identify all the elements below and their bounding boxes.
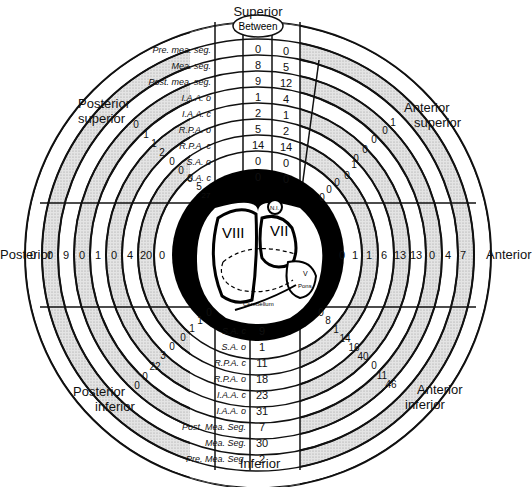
svg-text:R.P.A. c: R.P.A. c [214,358,246,368]
svg-text:2: 2 [255,107,261,119]
svg-text:14: 14 [252,139,264,151]
svg-text:9: 9 [255,75,261,87]
svg-text:I.A.A. c: I.A.A. c [217,390,247,400]
svg-text:1: 1 [95,249,101,261]
svg-text:22: 22 [149,361,161,372]
svg-text:0: 0 [142,371,148,382]
svg-text:Pre. mea. seg.: Pre. mea. seg. [152,45,211,55]
svg-text:0: 0 [371,134,377,145]
svg-text:1: 1 [333,324,339,335]
svg-text:0: 0 [206,307,212,318]
svg-text:Post. mea. seg.: Post. mea. seg. [148,77,211,87]
label-pons: Pons [298,283,312,289]
svg-text:1: 1 [283,109,289,121]
label-v: V [303,270,308,277]
svg-text:Post. Mea. Seg.: Post. Mea. Seg. [182,422,246,432]
svg-text:13: 13 [410,249,422,261]
svg-text:20: 20 [140,249,152,261]
svg-text:23: 23 [256,389,268,401]
svg-text:0: 0 [255,171,261,183]
svg-text:1: 1 [352,249,358,261]
svg-text:0: 0 [111,249,117,261]
svg-text:46: 46 [385,379,397,390]
label-vii: VII [270,222,288,239]
between-label: Between [239,21,278,32]
svg-text:0: 0 [334,177,340,188]
svg-text:7: 7 [259,421,265,433]
svg-text:5: 5 [283,61,289,73]
svg-text:14: 14 [280,141,292,153]
svg-text:31: 31 [256,405,268,417]
svg-text:Mea. Seg.: Mea. Seg. [205,438,246,448]
svg-text:R.P.A. o: R.P.A. o [179,125,211,135]
svg-text:0: 0 [79,249,85,261]
svg-text:7: 7 [460,249,466,261]
svg-text:S.A. o: S.A. o [186,157,211,167]
svg-text:0: 0 [187,173,193,184]
svg-text:0: 0 [180,332,186,343]
svg-text:1: 1 [197,315,203,326]
svg-text:0: 0 [353,153,359,164]
svg-text:4: 4 [445,249,451,261]
svg-text:0: 0 [255,155,261,167]
label-anterior-superior: Anterior superior [404,100,461,130]
svg-text:R.P.A. o: R.P.A. o [214,374,246,384]
svg-text:0: 0 [318,307,324,318]
label-viii: VIII [222,224,245,241]
svg-text:0: 0 [382,125,388,136]
svg-text:0: 0 [339,249,345,261]
label-cerebellum: Cerebellum [243,301,274,307]
svg-text:R.P.A. c: R.P.A. c [179,141,211,151]
label-posterior-superior: Posterior superior [78,96,130,126]
svg-text:0: 0 [133,119,139,130]
svg-text:0: 0 [134,380,140,391]
svg-text:0: 0 [283,173,289,185]
label-posterior-inferior: Posterior inferior [73,384,135,414]
svg-text:12: 12 [280,77,292,89]
svg-text:27: 27 [202,191,211,200]
svg-text:0: 0 [326,184,332,195]
svg-text:0: 0 [159,249,165,261]
svg-text:18: 18 [256,373,268,385]
svg-text:0: 0 [283,45,289,57]
svg-text:11: 11 [256,357,267,369]
svg-text:1: 1 [390,117,396,128]
anterior-values: 0 1 1 6 13 13 0 4 7 [339,249,466,261]
svg-text:5: 5 [255,123,261,135]
svg-text:0: 0 [344,170,350,181]
svg-text:1: 1 [151,138,157,149]
label-posterior: Posterior [0,247,52,262]
svg-text:0: 0 [319,192,325,203]
svg-text:0: 0 [169,341,175,352]
svg-text:40: 40 [357,351,369,362]
label-superior: Superior [228,4,288,19]
svg-text:1: 1 [189,323,195,334]
svg-text:9: 9 [63,249,69,261]
svg-text:8: 8 [325,315,331,326]
svg-text:I.A.A. o: I.A.A. o [181,93,211,103]
svg-text:4: 4 [283,93,289,105]
svg-text:I.A.A. o: I.A.A. o [216,406,246,416]
label-inferior: Inferior [230,456,290,471]
label-ni: N.I. [270,205,280,211]
svg-text:1: 1 [259,341,265,353]
svg-text:2: 2 [159,147,165,158]
svg-text:1: 1 [255,91,261,103]
svg-text:0: 0 [283,157,289,169]
svg-text:0: 0 [255,43,261,55]
svg-text:4: 4 [127,249,133,261]
svg-text:1: 1 [366,249,372,261]
svg-text:2: 2 [283,125,289,137]
svg-text:1: 1 [143,129,149,140]
svg-text:6: 6 [381,249,387,261]
label-anterior-inferior: Anterior inferior [405,382,463,412]
svg-text:0: 0 [169,156,175,167]
svg-text:3: 3 [160,350,166,361]
svg-text:9: 9 [259,325,265,337]
svg-text:0: 0 [362,144,368,155]
svg-text:0: 0 [429,249,435,261]
svg-text:13: 13 [394,249,406,261]
svg-text:0: 0 [178,165,184,176]
svg-text:Mea. seg.: Mea. seg. [171,61,211,71]
svg-text:30: 30 [256,437,268,449]
